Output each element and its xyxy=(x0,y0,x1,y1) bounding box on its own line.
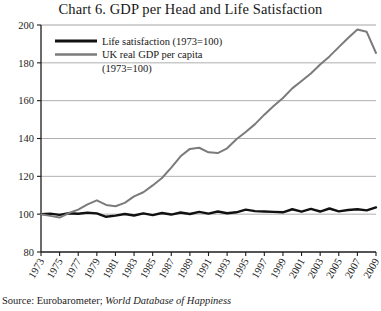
legend: Life satisfaction (1973=100)UK real GDP … xyxy=(55,36,223,75)
x-tick-label: 1983 xyxy=(119,257,139,281)
x-tick-label: 1975 xyxy=(45,257,65,281)
y-tick-label: 200 xyxy=(18,20,34,31)
x-tick-label: 1991 xyxy=(194,257,214,281)
y-tick-label: 140 xyxy=(18,133,34,144)
x-tick-label: 1987 xyxy=(156,257,176,281)
x-tick-label: 1999 xyxy=(268,257,288,281)
source-note: Source: Eurobarometer; World Database of… xyxy=(2,295,231,306)
x-tick-label: 2007 xyxy=(343,257,363,281)
y-axis-ticks: 80100120140160180200 xyxy=(18,20,41,258)
legend-label: UK real GDP per capita xyxy=(102,49,203,60)
x-tick-label: 1973 xyxy=(26,257,46,281)
x-tick-label: 2001 xyxy=(287,257,307,281)
x-tick-label: 1993 xyxy=(212,257,232,281)
x-tick-label: 1981 xyxy=(101,257,121,281)
x-tick-label: 1989 xyxy=(175,257,195,281)
source-prefix: Source: Eurobarometer; xyxy=(2,295,105,306)
x-tick-label: 1995 xyxy=(231,257,251,281)
x-tick-label: 1979 xyxy=(82,257,102,281)
series-line xyxy=(41,30,376,218)
chart-figure: Chart 6. GDP per Head and Life Satisfact… xyxy=(0,0,381,311)
x-tick-label: 2005 xyxy=(324,257,344,281)
y-tick-label: 180 xyxy=(18,58,34,69)
y-tick-label: 120 xyxy=(18,171,34,182)
series-line xyxy=(41,207,376,216)
legend-label-continuation: (1973=100) xyxy=(102,63,152,75)
x-tick-label: 1997 xyxy=(250,257,270,281)
y-tick-label: 100 xyxy=(18,209,34,220)
line-chart: 80100120140160180200 1973197519771979198… xyxy=(0,0,381,311)
x-tick-label: 1985 xyxy=(138,257,158,281)
x-tick-label: 1977 xyxy=(63,257,83,281)
data-series xyxy=(41,30,376,218)
x-tick-label: 2009 xyxy=(361,257,381,281)
y-tick-label: 160 xyxy=(18,95,34,106)
x-axis-ticks: 1973197519771979198119831985198719891991… xyxy=(26,252,381,280)
y-tick-label: 80 xyxy=(24,247,35,258)
source-database: World Database of Happiness xyxy=(105,295,231,306)
legend-label: Life satisfaction (1973=100) xyxy=(102,36,223,48)
x-tick-label: 2003 xyxy=(305,257,325,281)
